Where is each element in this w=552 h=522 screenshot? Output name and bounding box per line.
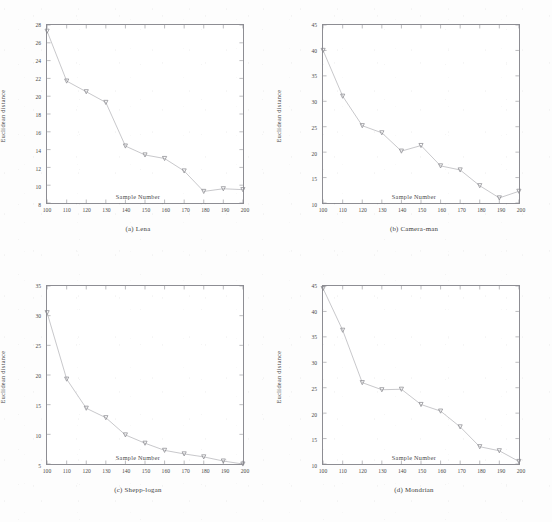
- x-tick-label: 110: [339, 207, 347, 213]
- plot-area-a: Euclidean distance 100110120130140150160…: [0, 0, 276, 232]
- x-tick-label: 160: [162, 207, 170, 213]
- chart-panel-a: Euclidean distance 100110120130140150160…: [0, 0, 276, 261]
- x-tick-label: 190: [221, 468, 229, 474]
- y-tick-label: 25: [36, 343, 42, 349]
- series-svg-a: [47, 25, 243, 203]
- series-svg-d: [323, 286, 519, 464]
- series-line: [323, 50, 519, 197]
- x-tick-label: 160: [438, 468, 446, 474]
- panel-caption-a: (a) Lena: [0, 225, 276, 232]
- x-tick-label: 120: [82, 207, 90, 213]
- x-tick-label: 200: [241, 468, 249, 474]
- y-tick-label: 24: [36, 58, 42, 64]
- x-tick-label: 130: [378, 207, 386, 213]
- y-tick-label: 16: [36, 130, 42, 136]
- x-tick-label: 140: [122, 207, 130, 213]
- x-axis-label-d: Sample Number: [276, 454, 552, 461]
- x-tick-label: 150: [418, 207, 426, 213]
- y-tick-label: 22: [36, 76, 42, 82]
- y-tick-label: 10: [36, 433, 42, 439]
- y-tick-label: 20: [36, 373, 42, 379]
- plot-area-d: Euclidean distance 100110120130140150160…: [276, 261, 552, 493]
- axes-a: 1001101201301401501601701801902008101214…: [46, 24, 244, 204]
- x-tick-label: 140: [398, 207, 406, 213]
- series-svg-c: [47, 286, 243, 464]
- x-tick-label: 160: [438, 207, 446, 213]
- x-tick-label: 160: [162, 468, 170, 474]
- y-tick-label: 14: [36, 148, 42, 154]
- y-tick-label: 20: [312, 151, 318, 157]
- x-tick-label: 170: [457, 207, 465, 213]
- y-tick-label: 8: [38, 202, 41, 208]
- axes-b: 1001101201301401501601701801902001015202…: [322, 24, 520, 204]
- y-tick-label: 30: [36, 313, 42, 319]
- chart-panel-c: Euclidean distance 100110120130140150160…: [0, 261, 276, 522]
- y-tick-label: 35: [36, 283, 42, 289]
- x-tick-label: 150: [142, 468, 150, 474]
- y-tick-label: 40: [312, 48, 318, 54]
- y-tick-label: 15: [312, 437, 318, 443]
- data-point-marker: [45, 29, 49, 33]
- x-tick-label: 190: [497, 468, 505, 474]
- y-tick-label: 26: [36, 40, 42, 46]
- y-tick-label: 30: [312, 99, 318, 105]
- plot-area-c: Euclidean distance 100110120130140150160…: [0, 261, 276, 493]
- chart-panel-b: Euclidean distance 100110120130140150160…: [276, 0, 552, 261]
- panel-caption-d: (d) Mondrian: [276, 486, 552, 493]
- x-axis-label-a: Sample Number: [0, 193, 276, 200]
- x-tick-label: 180: [477, 468, 485, 474]
- x-tick-label: 190: [497, 207, 505, 213]
- y-axis-label-a: Euclidean distance: [0, 90, 6, 143]
- series-svg-b: [323, 25, 519, 203]
- x-tick-label: 170: [457, 468, 465, 474]
- y-tick-label: 40: [312, 309, 318, 315]
- x-tick-label: 100: [319, 207, 327, 213]
- x-tick-label: 110: [63, 468, 71, 474]
- y-tick-label: 10: [36, 184, 42, 190]
- x-tick-label: 120: [82, 468, 90, 474]
- y-tick-label: 35: [312, 334, 318, 340]
- plot-area-b: Euclidean distance 100110120130140150160…: [276, 0, 552, 232]
- x-tick-label: 110: [339, 468, 347, 474]
- y-tick-label: 15: [36, 403, 42, 409]
- y-axis-label-c: Euclidean distance: [0, 351, 6, 404]
- x-tick-label: 130: [102, 468, 110, 474]
- y-tick-label: 25: [312, 386, 318, 392]
- x-tick-label: 180: [201, 468, 209, 474]
- x-tick-label: 100: [43, 207, 51, 213]
- x-tick-label: 180: [477, 207, 485, 213]
- x-tick-label: 200: [517, 468, 525, 474]
- y-tick-label: 45: [312, 22, 318, 28]
- x-tick-label: 150: [418, 468, 426, 474]
- x-tick-label: 100: [319, 468, 327, 474]
- x-tick-label: 180: [201, 207, 209, 213]
- y-axis-label-d: Euclidean distance: [275, 351, 282, 404]
- chart-panel-d: Euclidean distance 100110120130140150160…: [276, 261, 552, 522]
- panel-caption-c: (c) Shepp-logan: [0, 486, 276, 493]
- x-tick-label: 200: [517, 207, 525, 213]
- x-tick-label: 100: [43, 468, 51, 474]
- x-tick-label: 190: [221, 207, 229, 213]
- x-tick-label: 140: [122, 468, 130, 474]
- x-tick-label: 170: [181, 468, 189, 474]
- y-tick-label: 12: [36, 166, 42, 172]
- y-tick-label: 20: [36, 94, 42, 100]
- x-tick-label: 150: [142, 207, 150, 213]
- y-tick-label: 15: [312, 176, 318, 182]
- y-axis-label-b: Euclidean distance: [275, 90, 282, 143]
- y-tick-label: 35: [312, 73, 318, 79]
- y-tick-label: 18: [36, 112, 42, 118]
- x-tick-label: 130: [102, 207, 110, 213]
- x-tick-label: 120: [358, 468, 366, 474]
- series-line: [323, 289, 519, 462]
- y-tick-label: 10: [312, 463, 318, 469]
- y-tick-label: 20: [312, 412, 318, 418]
- series-line: [47, 31, 243, 191]
- axes-c: 1001101201301401501601701801902005101520…: [46, 285, 244, 465]
- y-tick-label: 25: [312, 125, 318, 131]
- panel-caption-b: (b) Camera-man: [276, 225, 552, 232]
- y-tick-label: 28: [36, 22, 42, 28]
- x-tick-label: 130: [378, 468, 386, 474]
- x-tick-label: 200: [241, 207, 249, 213]
- y-tick-label: 30: [312, 360, 318, 366]
